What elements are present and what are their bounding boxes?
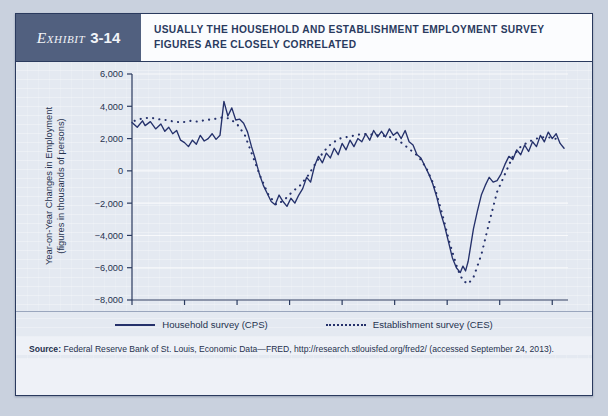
solid-line-icon (115, 324, 155, 326)
exhibit-header: Exhibit 3-14 Usually the Household and E… (16, 14, 592, 62)
svg-text:0: 0 (118, 166, 123, 176)
source-label: Source: (29, 344, 61, 354)
page-root: Exhibit 3-14 Usually the Household and E… (0, 0, 608, 416)
svg-text:4,000: 4,000 (100, 102, 123, 112)
legend-label-establishment: Establishment survey (CES) (373, 319, 493, 330)
legend-label-household: Household survey (CPS) (162, 319, 268, 330)
exhibit-title: Usually the Household and Establishment … (141, 14, 592, 61)
exhibit-figure-card: Exhibit 3-14 Usually the Household and E… (15, 13, 593, 396)
svg-text:−6,000: −6,000 (95, 263, 123, 273)
exhibit-number: 3-14 (90, 29, 120, 46)
svg-text:6,000: 6,000 (100, 69, 123, 79)
chart-legend: Household survey (CPS) Establishment sur… (16, 311, 592, 337)
svg-text:2,000: 2,000 (100, 134, 123, 144)
exhibit-word: Exhibit (37, 29, 86, 47)
source-text: Federal Reserve Bank of St. Louis, Econo… (61, 344, 554, 354)
dotted-line-icon (326, 324, 366, 326)
svg-text:−8,000: −8,000 (95, 295, 123, 305)
legend-item-household: Household survey (CPS) (115, 319, 268, 330)
source-note: Source: Federal Reserve Bank of St. Loui… (16, 337, 592, 355)
legend-item-establishment: Establishment survey (CES) (326, 319, 493, 330)
svg-text:−4,000: −4,000 (95, 231, 123, 241)
svg-text:−2,000: −2,000 (95, 199, 123, 209)
exhibit-number-tab: Exhibit 3-14 (16, 14, 141, 61)
